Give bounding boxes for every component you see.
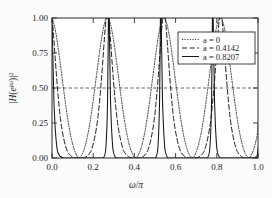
legend-label-a-08207: a = 0.8207 bbox=[203, 52, 239, 62]
x-axis-title: ω/π bbox=[129, 180, 143, 190]
x-tick-label-4: 0.8 bbox=[211, 162, 223, 172]
x-tick-label-1: 0.2 bbox=[88, 162, 99, 172]
y-tick-label-3: 0.75 bbox=[32, 48, 48, 58]
y-title-power: 2 bbox=[7, 73, 14, 76]
frequency-response-chart: 0.0 0.2 0.4 0.6 0.8 1.0 0.00 0.25 0.50 0… bbox=[0, 0, 272, 198]
y-tick-label-1: 0.25 bbox=[32, 118, 48, 128]
x-axis-pi: π bbox=[138, 180, 143, 190]
x-tick-label-0: 0.0 bbox=[46, 162, 58, 172]
x-tick-label-2: 0.4 bbox=[129, 162, 141, 172]
y-axis-title-group: |H(ejω)|2 bbox=[7, 73, 19, 104]
y-axis-title: |H(ejω)|2 bbox=[7, 73, 19, 104]
x-tick-label-5: 1.0 bbox=[252, 162, 264, 172]
x-axis-tick-labels: 0.0 0.2 0.4 0.6 0.8 1.0 bbox=[46, 162, 264, 172]
x-tick-label-3: 0.6 bbox=[170, 162, 182, 172]
y-tick-label-4: 1.00 bbox=[32, 13, 48, 23]
figure-canvas: 0.0 0.2 0.4 0.6 0.8 1.0 0.00 0.25 0.50 0… bbox=[0, 0, 272, 198]
legend[interactable]: a = 0 a = 0.4142 a = 0.8207 bbox=[178, 32, 255, 64]
y-tick-label-2: 0.50 bbox=[32, 83, 48, 93]
y-tick-label-0: 0.00 bbox=[32, 153, 48, 163]
y-axis-tick-labels: 0.00 0.25 0.50 0.75 1.00 bbox=[32, 13, 48, 163]
